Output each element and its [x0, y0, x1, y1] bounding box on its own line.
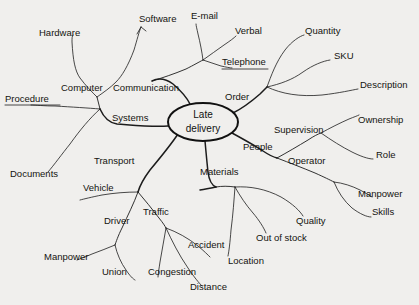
node-label-supervision: Supervision [274, 124, 324, 135]
central-node-label-line2: delivery [186, 123, 220, 134]
node-label-sku: SKU [334, 50, 354, 61]
node-label-verbal: Verbal [235, 25, 262, 36]
node-label-ownership: Ownership [358, 114, 403, 125]
branch-documents-twig [48, 109, 100, 172]
node-label-software: Software [139, 13, 177, 24]
branch-spine-transport [138, 134, 178, 192]
branch-software-arrow2 [141, 27, 146, 31]
node-label-union: Union [102, 266, 127, 277]
branch-sup-role [321, 133, 373, 159]
node-label-role: Role [376, 149, 396, 160]
node-label-telephone: Telephone [222, 56, 266, 67]
central-node-label-line1: Late [193, 109, 213, 120]
node-label-outofstock: Out of stock [256, 232, 307, 243]
node-label-quality: Quality [296, 215, 326, 226]
mindmap-canvas: Late delivery HardwareSoftwareE-mailVerb… [0, 0, 419, 305]
branch-comm-stem [152, 60, 203, 81]
node-label-congestion: Congestion [148, 266, 196, 277]
branch-materials-stem [216, 186, 235, 187]
node-label-systems: Systems [112, 112, 149, 123]
node-label-manpower-r: Manpower [358, 188, 402, 199]
node-label-location: Location [228, 255, 264, 266]
branch-order-quantity [267, 35, 304, 87]
branch-materials-spine2 [200, 187, 216, 190]
node-label-operator: Operator [288, 155, 326, 166]
branch-computer-junction [97, 97, 100, 109]
branch-materials-oos [235, 187, 266, 233]
node-label-driver: Driver [104, 215, 129, 226]
node-label-procedure: Procedure [5, 93, 49, 104]
node-label-distance: Distance [190, 281, 227, 292]
node-label-communication: Communication [113, 82, 179, 93]
node-label-quantity: Quantity [305, 25, 341, 36]
node-label-computer: Computer [61, 82, 103, 93]
node-label-skills: Skills [372, 206, 394, 217]
node-label-manpower-l: Manpower [44, 251, 88, 262]
node-label-order: Order [225, 91, 249, 102]
central-node: Late delivery [168, 103, 238, 141]
node-label-hardware: Hardware [39, 27, 80, 38]
node-label-vehicle: Vehicle [83, 182, 114, 193]
node-label-materials: Materials [200, 166, 239, 177]
branch-spine-materials [205, 141, 216, 187]
branch-transport-vehicle [80, 192, 138, 200]
node-label-accident: Accident [188, 239, 225, 250]
branch-materials-location [228, 187, 235, 256]
branch-sup-ownership [321, 115, 359, 133]
node-label-email: E-mail [191, 10, 218, 21]
branch-materials-quality [235, 187, 303, 216]
branch-order-description [267, 87, 358, 96]
node-label-documents: Documents [10, 168, 58, 179]
node-label-people: People [243, 141, 273, 152]
node-label-transport: Transport [94, 155, 135, 166]
node-label-description: Description [360, 79, 408, 90]
node-label-traffic: Traffic [143, 206, 169, 217]
cause-effect-diagram: Late delivery HardwareSoftwareE-mailVerb… [0, 0, 419, 305]
branch-comm-email [196, 24, 203, 60]
branch-procedure-twig [31, 105, 100, 109]
